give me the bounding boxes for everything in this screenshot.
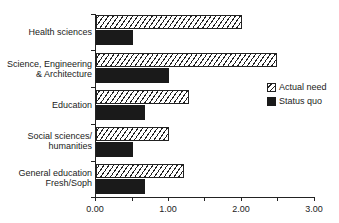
x-tick: [168, 197, 169, 201]
category-label-education: Education: [52, 100, 92, 110]
bar-actual-need-health: [96, 15, 242, 29]
x-tick: [95, 197, 96, 201]
hatched-swatch-icon: [267, 83, 276, 92]
bar-status-quo-science: [96, 68, 169, 83]
x-tick-label: 0.00: [80, 204, 110, 214]
solid-swatch-icon: [267, 97, 276, 106]
category-label-general-education: General education Fresh/Soph: [18, 168, 92, 188]
legend-label: Actual need: [279, 82, 327, 92]
bar-status-quo-health: [96, 30, 133, 45]
legend-label: Status quo: [279, 96, 322, 106]
x-axis: [95, 197, 315, 198]
legend: Actual need Status quo: [267, 80, 327, 108]
y-tick: [91, 124, 95, 125]
bar-actual-need-science: [96, 53, 277, 67]
category-label-science-engineering: Science, Engineering & Architecture: [7, 59, 92, 79]
x-tick-minor: [204, 197, 205, 201]
category-label-social-sciences: Social sciences/ humanities: [27, 131, 92, 151]
bar-status-quo-education: [96, 105, 145, 120]
bar-chart: Health sciences Science, Engineering & A…: [0, 0, 339, 223]
y-tick: [91, 50, 95, 51]
x-tick: [314, 197, 315, 201]
x-tick-label: 2.00: [226, 204, 256, 214]
bar-actual-need-education: [96, 90, 189, 104]
bar-actual-need-general: [96, 164, 184, 178]
x-tick-label: 3.00: [299, 204, 329, 214]
y-tick: [91, 14, 95, 15]
y-tick: [91, 87, 95, 88]
legend-item-actual-need: Actual need: [267, 80, 327, 94]
legend-item-status-quo: Status quo: [267, 94, 327, 108]
x-tick-minor: [277, 197, 278, 201]
x-tick-label: 1.00: [153, 204, 183, 214]
bar-status-quo-social: [96, 142, 133, 157]
x-tick-minor: [132, 197, 133, 201]
x-tick: [241, 197, 242, 201]
y-tick: [91, 161, 95, 162]
category-label-health-sciences: Health sciences: [28, 27, 92, 37]
bar-actual-need-social: [96, 127, 169, 141]
bar-status-quo-general: [96, 179, 145, 194]
